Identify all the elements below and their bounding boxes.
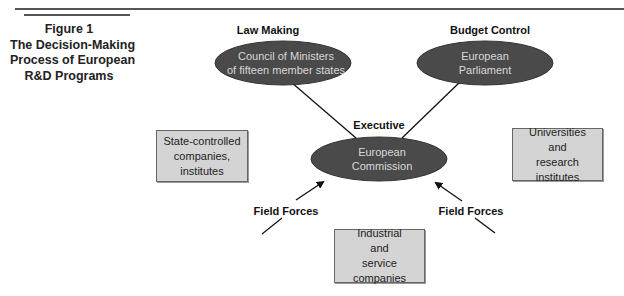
- industrial-line-2: and: [370, 241, 388, 256]
- right-field-forces-label: Field Forces: [439, 205, 504, 217]
- universities-line-1: Universities: [529, 125, 586, 140]
- state-controlled-box: State-controlled companies, institutes: [156, 130, 248, 182]
- council-text: Council of Ministers of fifteen member s…: [227, 49, 345, 77]
- commission-text: European Commission: [352, 145, 413, 173]
- universities-line-2: and: [548, 140, 566, 155]
- left-field-forces-label: Field Forces: [254, 205, 319, 217]
- universities-line-3: research institutes: [513, 155, 602, 185]
- council-line-1: Council of Ministers: [227, 49, 345, 63]
- industrial-line-3: service companies: [335, 256, 424, 286]
- parliament-text: European Parliament: [459, 49, 512, 77]
- council-line-2: of fifteen member states: [227, 63, 345, 77]
- executive-label: Executive: [353, 119, 404, 131]
- state-controlled-line-3: institutes: [180, 164, 223, 179]
- budget-control-label: Budget Control: [450, 24, 530, 36]
- industrial-box: Industrial and service companies: [334, 229, 425, 283]
- parliament-line-1: European: [459, 49, 512, 63]
- parliament-commission-connector: [402, 81, 461, 138]
- right-field-force-tail: [475, 218, 495, 233]
- universities-box: Universities and research institutes: [512, 128, 603, 181]
- law-making-label: Law Making: [237, 24, 299, 36]
- left-field-force-arrow: [296, 182, 323, 200]
- state-controlled-line-2: companies,: [174, 149, 230, 164]
- commission-line-2: Commission: [352, 159, 413, 173]
- parliament-line-2: Parliament: [459, 63, 512, 77]
- right-field-force-arrow: [436, 183, 462, 201]
- council-commission-connector: [291, 82, 356, 138]
- commission-line-1: European: [352, 145, 413, 159]
- left-field-force-tail: [262, 218, 282, 234]
- state-controlled-line-1: State-controlled: [163, 134, 240, 149]
- industrial-line-1: Industrial: [357, 226, 402, 241]
